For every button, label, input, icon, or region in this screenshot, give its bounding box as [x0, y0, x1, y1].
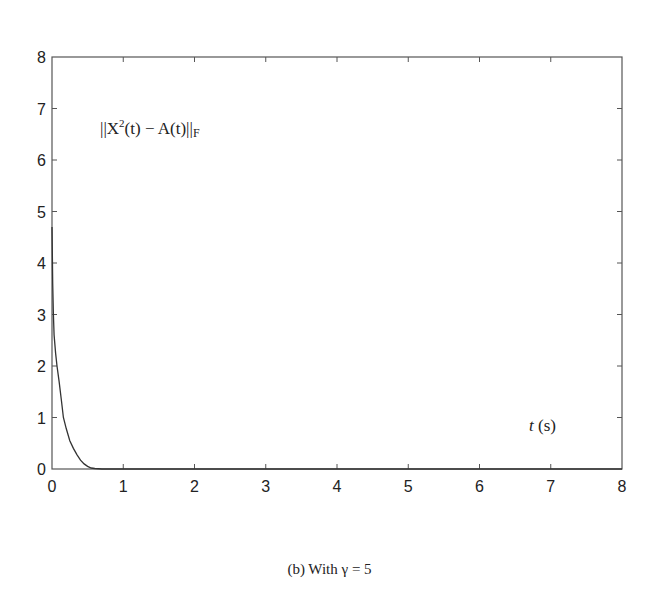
- y-tick-label: 2: [37, 358, 46, 375]
- figure-caption: (b) With γ = 5: [0, 561, 659, 578]
- x-tick-label: 0: [48, 478, 57, 495]
- y-tick-label: 3: [37, 307, 46, 324]
- y-tick-label: 6: [37, 152, 46, 169]
- x-tick-label: 3: [261, 478, 270, 495]
- y-tick-label: 8: [37, 49, 46, 66]
- curve-annotation: ||X2(t) − A(t)||F: [100, 117, 200, 140]
- x-axis-label: t (s): [529, 416, 556, 435]
- y-tick-label: 1: [37, 410, 46, 427]
- line-chart: 012345678012345678 ||X2(t) − A(t)||F t (…: [0, 0, 659, 540]
- x-tick-label: 2: [190, 478, 199, 495]
- x-tick-label: 1: [119, 478, 128, 495]
- y-tick-label: 4: [37, 255, 46, 272]
- y-tick-label: 7: [37, 101, 46, 118]
- y-tick-label: 5: [37, 204, 46, 221]
- x-tick-label: 6: [475, 478, 484, 495]
- x-tick-label: 8: [618, 478, 627, 495]
- y-tick-label: 0: [37, 461, 46, 478]
- x-tick-label: 5: [404, 478, 413, 495]
- x-tick-label: 7: [546, 478, 555, 495]
- x-tick-label: 4: [333, 478, 342, 495]
